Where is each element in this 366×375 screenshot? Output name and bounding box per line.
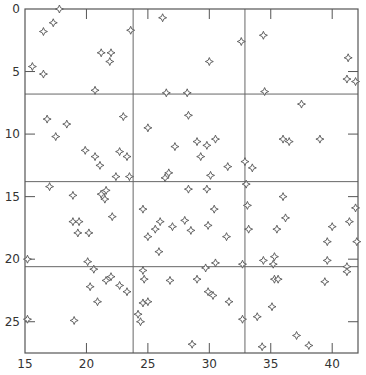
data-point	[81, 146, 89, 154]
data-point	[343, 268, 351, 276]
data-point	[343, 75, 351, 83]
data-point	[203, 185, 211, 193]
data-point	[323, 238, 331, 246]
data-point	[97, 49, 105, 57]
data-point	[210, 205, 218, 213]
data-point	[197, 153, 205, 161]
data-point	[204, 221, 212, 229]
data-point	[85, 229, 93, 237]
data-point	[112, 173, 120, 181]
x-tick-label: 25	[140, 357, 155, 371]
data-point	[137, 318, 145, 326]
data-point	[116, 148, 124, 156]
data-point	[171, 143, 179, 151]
data-point	[134, 310, 142, 318]
x-tick-label: 40	[325, 357, 340, 371]
data-point	[211, 259, 219, 267]
data-point	[75, 218, 83, 226]
data-point	[193, 138, 201, 146]
data-point	[69, 191, 77, 199]
data-point	[116, 281, 124, 289]
data-point	[188, 340, 196, 348]
data-point	[259, 31, 267, 39]
data-point	[183, 89, 191, 97]
data-point	[273, 225, 281, 233]
data-point	[282, 214, 290, 222]
data-point	[225, 298, 233, 306]
data-point	[151, 225, 159, 233]
x-tick-label: 15	[17, 357, 32, 371]
data-point	[123, 153, 131, 161]
data-point	[203, 141, 211, 149]
data-point	[187, 226, 195, 234]
data-point	[139, 266, 147, 274]
data-point	[55, 5, 63, 13]
y-tick-label: 0	[12, 2, 20, 16]
data-point	[144, 233, 152, 241]
data-point	[237, 38, 245, 46]
data-point	[86, 283, 94, 291]
data-point	[184, 111, 192, 119]
data-point	[156, 218, 164, 226]
data-point	[202, 264, 210, 272]
data-point	[279, 193, 287, 201]
data-point	[297, 100, 305, 108]
y-tick-label: 15	[5, 190, 20, 204]
data-point	[49, 19, 57, 27]
data-point	[162, 89, 170, 97]
y-tick-label: 25	[5, 315, 20, 329]
data-point	[166, 276, 174, 284]
y-tick-label: 10	[5, 127, 20, 141]
data-point	[344, 54, 352, 62]
data-point	[223, 233, 231, 241]
data-point	[241, 158, 249, 166]
x-tick-label: 30	[202, 357, 217, 371]
data-point	[91, 86, 99, 94]
data-point	[258, 343, 266, 351]
data-point	[168, 223, 176, 231]
data-point	[125, 173, 133, 181]
data-point	[181, 216, 189, 224]
y-tick-label: 5	[12, 65, 20, 79]
data-point	[106, 58, 114, 66]
data-point	[43, 115, 51, 123]
data-point	[211, 135, 219, 143]
data-points	[23, 5, 360, 351]
scatter-chart: 1520253035400510152025	[0, 0, 366, 375]
data-point	[52, 133, 60, 141]
data-point	[70, 316, 78, 324]
data-point	[293, 331, 301, 339]
data-point	[119, 113, 127, 121]
data-point	[108, 213, 116, 221]
data-point	[224, 163, 232, 171]
data-point	[74, 229, 82, 237]
data-point	[93, 298, 101, 306]
reference-lines	[25, 9, 358, 353]
data-point	[353, 238, 361, 246]
data-point	[245, 225, 253, 233]
data-point	[39, 70, 47, 78]
data-point	[107, 49, 115, 57]
data-point	[144, 124, 152, 132]
data-point	[193, 275, 201, 283]
data-point	[268, 303, 276, 311]
x-tick-label: 35	[263, 357, 278, 371]
data-point	[253, 313, 261, 321]
axis-tick-labels: 1520253035400510152025	[5, 2, 340, 371]
data-point	[248, 164, 256, 172]
data-point	[316, 135, 324, 143]
data-point	[328, 223, 336, 231]
data-point	[91, 153, 99, 161]
x-tick-label: 20	[79, 357, 94, 371]
data-point	[207, 171, 215, 179]
plot-frame	[25, 9, 358, 353]
data-point	[184, 185, 192, 193]
data-point	[28, 63, 36, 71]
data-point	[63, 120, 71, 128]
data-point	[323, 256, 331, 264]
data-point	[321, 278, 329, 286]
data-point	[46, 183, 54, 191]
data-point	[155, 248, 163, 256]
data-point	[259, 256, 267, 264]
y-tick-label: 20	[5, 252, 20, 266]
